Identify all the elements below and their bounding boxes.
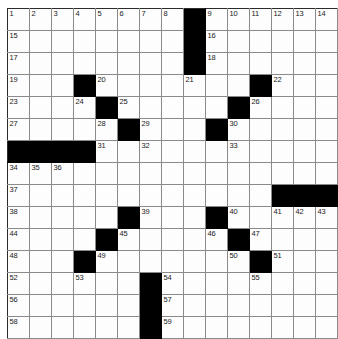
crossword-cell[interactable] bbox=[294, 317, 316, 339]
crossword-cell[interactable] bbox=[96, 31, 118, 53]
crossword-cell[interactable] bbox=[184, 185, 206, 207]
crossword-cell[interactable]: 30 bbox=[228, 119, 250, 141]
crossword-cell[interactable] bbox=[162, 75, 184, 97]
crossword-cell[interactable] bbox=[184, 207, 206, 229]
crossword-cell[interactable]: 2 bbox=[30, 9, 52, 31]
crossword-cell[interactable] bbox=[184, 273, 206, 295]
crossword-cell[interactable]: 46 bbox=[206, 229, 228, 251]
crossword-cell[interactable]: 31 bbox=[96, 141, 118, 163]
crossword-cell[interactable] bbox=[118, 273, 140, 295]
crossword-cell[interactable] bbox=[294, 141, 316, 163]
crossword-cell[interactable] bbox=[228, 185, 250, 207]
crossword-cell[interactable]: 14 bbox=[316, 9, 338, 31]
crossword-cell[interactable] bbox=[294, 97, 316, 119]
crossword-cell[interactable] bbox=[74, 317, 96, 339]
crossword-cell[interactable]: 22 bbox=[272, 75, 294, 97]
crossword-cell[interactable]: 1 bbox=[8, 9, 30, 31]
crossword-cell[interactable]: 11 bbox=[250, 9, 272, 31]
crossword-cell[interactable] bbox=[96, 185, 118, 207]
crossword-cell[interactable] bbox=[294, 295, 316, 317]
crossword-cell[interactable] bbox=[162, 163, 184, 185]
crossword-cell[interactable] bbox=[206, 185, 228, 207]
crossword-cell[interactable] bbox=[272, 317, 294, 339]
crossword-cell[interactable]: 47 bbox=[250, 229, 272, 251]
crossword-cell[interactable] bbox=[184, 141, 206, 163]
crossword-cell[interactable]: 58 bbox=[8, 317, 30, 339]
crossword-cell[interactable] bbox=[162, 207, 184, 229]
crossword-cell[interactable]: 9 bbox=[206, 9, 228, 31]
crossword-cell[interactable] bbox=[140, 185, 162, 207]
crossword-cell[interactable] bbox=[118, 295, 140, 317]
crossword-cell[interactable]: 42 bbox=[294, 207, 316, 229]
crossword-cell[interactable] bbox=[316, 75, 338, 97]
crossword-cell[interactable] bbox=[30, 317, 52, 339]
crossword-cell[interactable] bbox=[96, 295, 118, 317]
crossword-cell[interactable] bbox=[30, 97, 52, 119]
crossword-cell[interactable]: 39 bbox=[140, 207, 162, 229]
crossword-cell[interactable] bbox=[30, 185, 52, 207]
crossword-cell[interactable] bbox=[272, 141, 294, 163]
crossword-cell[interactable] bbox=[272, 163, 294, 185]
crossword-cell[interactable] bbox=[184, 317, 206, 339]
crossword-cell[interactable] bbox=[228, 53, 250, 75]
crossword-cell[interactable]: 33 bbox=[228, 141, 250, 163]
crossword-cell[interactable]: 40 bbox=[228, 207, 250, 229]
crossword-cell[interactable] bbox=[184, 163, 206, 185]
crossword-cell[interactable] bbox=[228, 317, 250, 339]
crossword-cell[interactable] bbox=[118, 75, 140, 97]
crossword-cell[interactable]: 32 bbox=[140, 141, 162, 163]
crossword-cell[interactable] bbox=[140, 97, 162, 119]
crossword-cell[interactable] bbox=[74, 229, 96, 251]
crossword-cell[interactable] bbox=[118, 317, 140, 339]
crossword-cell[interactable] bbox=[140, 53, 162, 75]
crossword-cell[interactable] bbox=[52, 273, 74, 295]
crossword-cell[interactable] bbox=[228, 273, 250, 295]
crossword-cell[interactable] bbox=[272, 273, 294, 295]
crossword-cell[interactable] bbox=[140, 163, 162, 185]
crossword-cell[interactable] bbox=[30, 273, 52, 295]
crossword-cell[interactable]: 51 bbox=[272, 251, 294, 273]
crossword-cell[interactable]: 10 bbox=[228, 9, 250, 31]
crossword-cell[interactable]: 44 bbox=[8, 229, 30, 251]
crossword-cell[interactable] bbox=[316, 53, 338, 75]
crossword-cell[interactable]: 15 bbox=[8, 31, 30, 53]
crossword-cell[interactable]: 37 bbox=[8, 185, 30, 207]
crossword-cell[interactable] bbox=[162, 229, 184, 251]
crossword-cell[interactable]: 25 bbox=[118, 97, 140, 119]
crossword-cell[interactable] bbox=[250, 163, 272, 185]
crossword-cell[interactable] bbox=[206, 317, 228, 339]
crossword-cell[interactable] bbox=[184, 251, 206, 273]
crossword-cell[interactable]: 13 bbox=[294, 9, 316, 31]
crossword-cell[interactable] bbox=[316, 163, 338, 185]
crossword-cell[interactable] bbox=[250, 185, 272, 207]
crossword-cell[interactable]: 50 bbox=[228, 251, 250, 273]
crossword-cell[interactable] bbox=[52, 185, 74, 207]
crossword-cell[interactable] bbox=[316, 317, 338, 339]
crossword-cell[interactable] bbox=[316, 97, 338, 119]
crossword-cell[interactable] bbox=[96, 53, 118, 75]
crossword-cell[interactable]: 24 bbox=[74, 97, 96, 119]
crossword-cell[interactable]: 45 bbox=[118, 229, 140, 251]
crossword-cell[interactable]: 34 bbox=[8, 163, 30, 185]
crossword-cell[interactable]: 57 bbox=[162, 295, 184, 317]
crossword-cell[interactable]: 23 bbox=[8, 97, 30, 119]
crossword-cell[interactable] bbox=[96, 207, 118, 229]
crossword-cell[interactable]: 5 bbox=[96, 9, 118, 31]
crossword-cell[interactable] bbox=[184, 229, 206, 251]
crossword-cell[interactable] bbox=[272, 119, 294, 141]
crossword-cell[interactable] bbox=[52, 229, 74, 251]
crossword-cell[interactable] bbox=[316, 295, 338, 317]
crossword-cell[interactable] bbox=[316, 273, 338, 295]
crossword-cell[interactable] bbox=[294, 229, 316, 251]
crossword-cell[interactable]: 20 bbox=[96, 75, 118, 97]
crossword-cell[interactable] bbox=[206, 273, 228, 295]
crossword-cell[interactable] bbox=[228, 163, 250, 185]
crossword-cell[interactable] bbox=[250, 31, 272, 53]
crossword-cell[interactable] bbox=[52, 97, 74, 119]
crossword-cell[interactable]: 52 bbox=[8, 273, 30, 295]
crossword-cell[interactable]: 8 bbox=[162, 9, 184, 31]
crossword-cell[interactable]: 56 bbox=[8, 295, 30, 317]
crossword-cell[interactable] bbox=[206, 163, 228, 185]
crossword-cell[interactable] bbox=[316, 31, 338, 53]
crossword-cell[interactable] bbox=[206, 75, 228, 97]
